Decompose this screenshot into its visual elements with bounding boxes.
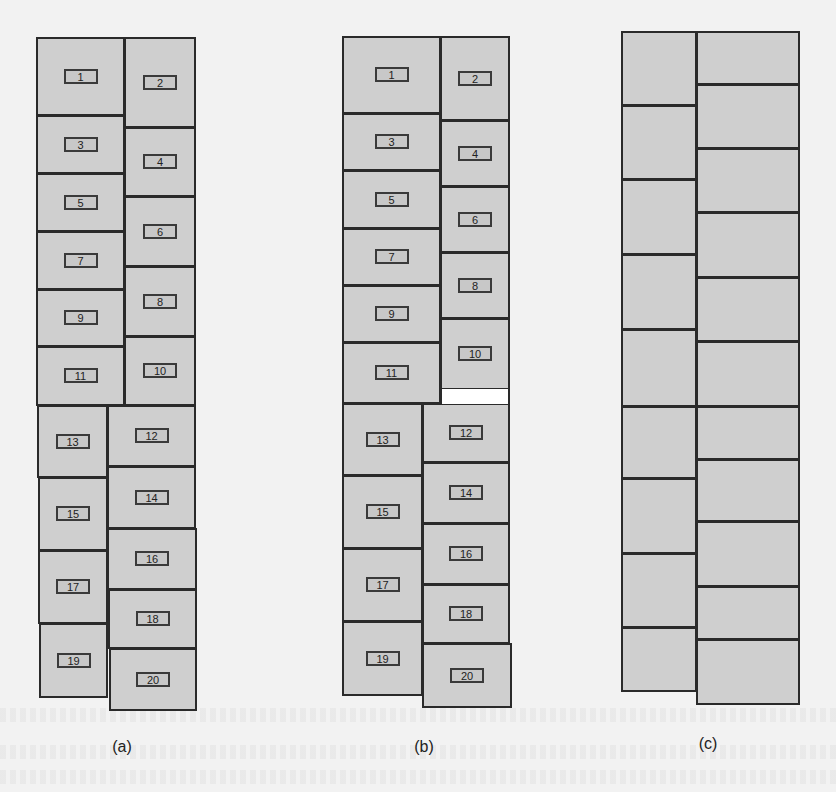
- block: [621, 478, 697, 554]
- block: [621, 553, 697, 628]
- block: [696, 406, 800, 460]
- caption-b: (b): [404, 738, 444, 756]
- block: [696, 459, 800, 522]
- block: [621, 179, 697, 255]
- block: [696, 84, 800, 149]
- block: [696, 586, 800, 640]
- block: [621, 105, 697, 180]
- block: [696, 148, 800, 213]
- block: [621, 31, 697, 106]
- block: [696, 212, 800, 278]
- caption-a: (a): [102, 738, 142, 756]
- block: [621, 329, 697, 407]
- block: [696, 639, 800, 705]
- diagram-c: [0, 0, 836, 792]
- block: [696, 31, 800, 85]
- block: [696, 521, 800, 587]
- block: [621, 254, 697, 330]
- block: [696, 341, 800, 407]
- block: [621, 406, 697, 479]
- block: [621, 627, 697, 692]
- block: [696, 277, 800, 342]
- caption-c: (c): [688, 735, 728, 753]
